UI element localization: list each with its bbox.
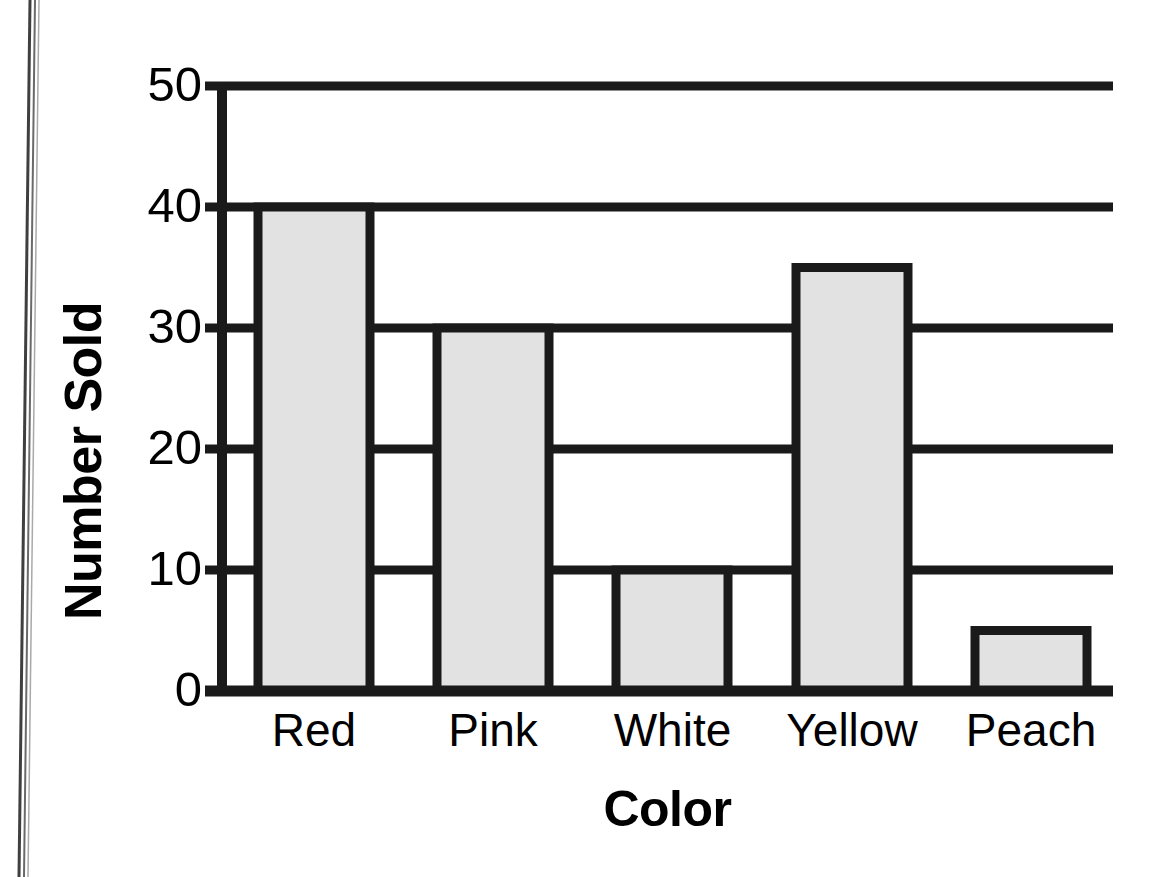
page-canvas: 50 40 30 20 10 0 Red Pink White Yellow P…: [0, 0, 1174, 877]
bar-red[interactable]: [258, 207, 370, 691]
y-tick-label-0: 0: [82, 665, 202, 714]
x-tick-label-peach: Peach: [960, 704, 1102, 756]
x-tick-label-yellow: Yellow: [779, 704, 925, 756]
x-axis-title: Color: [222, 779, 1113, 839]
bar-white[interactable]: [616, 570, 728, 691]
x-tick-label-pink: Pink: [423, 704, 563, 756]
bar-pink[interactable]: [437, 328, 549, 691]
y-axis-title: Number Sold: [52, 20, 114, 620]
bar-peach[interactable]: [975, 631, 1087, 692]
x-tick-label-white: White: [600, 704, 745, 756]
bar-yellow[interactable]: [796, 268, 908, 692]
x-tick-label-red: Red: [244, 704, 384, 756]
